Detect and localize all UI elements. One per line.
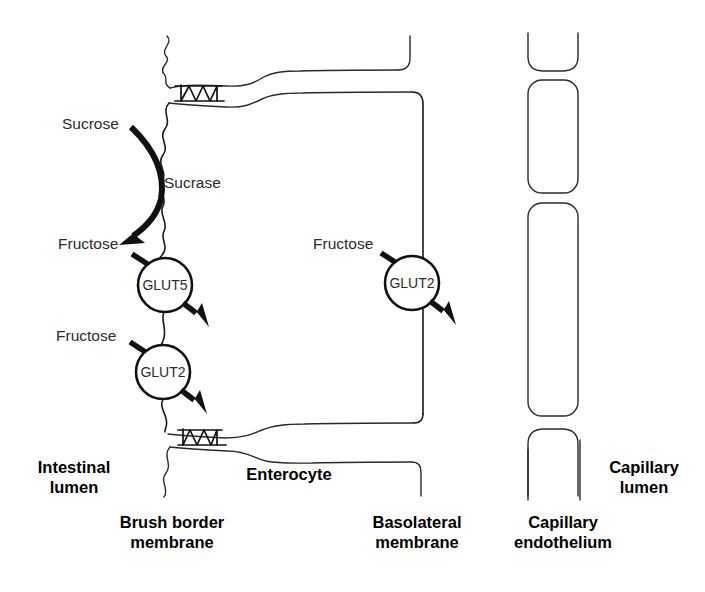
glut2-brush-border-label: GLUT2	[140, 364, 185, 380]
endothelial-cell-top-partial	[528, 33, 578, 71]
endothelial-cell-upper	[528, 80, 578, 193]
glut2-bl-outbound-arrow	[430, 301, 443, 311]
apical-tight-junction	[175, 85, 224, 101]
label-sucrose: Sucrose	[62, 115, 119, 132]
label-capillary-endothelium-line1: Capillary	[528, 513, 599, 531]
diagram-canvas: GLUT5 GLUT2 GLUT2 Sucrose Sucrase Fructo…	[0, 0, 705, 592]
brush-border-membrane-lower-wave	[162, 399, 167, 432]
enterocyte-basal-right-corner	[414, 414, 423, 423]
glut5-label: GLUT5	[142, 277, 187, 293]
capillary-leader-lines	[528, 440, 580, 500]
transporter-glut2-brush-border[interactable]: GLUT2	[130, 342, 207, 414]
transporter-glut5-brush-border[interactable]: GLUT5	[132, 254, 209, 327]
label-brush-border-line1: Brush border	[120, 513, 225, 531]
label-capillary-lumen-line2: lumen	[620, 478, 669, 496]
upper-cell-apical-wave	[162, 36, 170, 88]
label-basolateral-line1: Basolateral	[373, 513, 462, 531]
endothelial-cell-middle	[528, 203, 578, 416]
tight-junction-zigzag-apical	[181, 85, 217, 101]
label-fructose-lumen-lower: Fructose	[56, 327, 116, 344]
brush-border-membrane-intercarrier	[160, 312, 165, 346]
lower-cell-apical-wave	[164, 447, 170, 497]
label-intestinal-lumen-line2: lumen	[50, 478, 99, 496]
label-capillary-lumen-line1: Capillary	[609, 458, 680, 476]
glut2-bl-arrowhead	[438, 301, 456, 325]
enterocyte-apical-edge	[169, 92, 412, 107]
label-sucrase: Sucrase	[164, 174, 221, 191]
label-fructose-cytosol: Fructose	[313, 235, 373, 252]
enterocyte-outline	[159, 92, 423, 438]
upper-neighbor-cell	[162, 36, 410, 88]
glut2-basolateral-label: GLUT2	[389, 275, 434, 291]
fructose-absorption-diagram: GLUT5 GLUT2 GLUT2 Sucrose Sucrase Fructo…	[0, 0, 705, 592]
enterocyte-basolateral-top-corner	[412, 92, 423, 414]
label-capillary-endothelium-line2: endothelium	[514, 533, 612, 551]
label-brush-border-line2: membrane	[130, 533, 213, 551]
glut5-outbound-arrow	[183, 303, 196, 313]
glut5-inbound-arrow	[132, 254, 149, 265]
capillary-endothelium-cells	[528, 33, 578, 496]
sucrose-hydrolysis-arrow	[119, 127, 162, 245]
glut2-bb-arrowhead	[189, 390, 207, 414]
glut2-bb-outbound-arrow	[181, 390, 194, 400]
label-enterocyte: Enterocyte	[246, 465, 331, 483]
upper-cell-right-edge	[398, 36, 410, 70]
lower-cell-right-edge	[412, 462, 421, 496]
lower-cell-apical-edge	[170, 447, 412, 463]
glut5-arrowhead	[191, 303, 209, 327]
sucrose-to-fructose-curve	[131, 127, 162, 236]
endothelial-cell-bottom-partial	[528, 429, 578, 496]
transporter-glut2-basolateral[interactable]: GLUT2	[381, 253, 456, 325]
label-intestinal-lumen-line1: Intestinal	[38, 458, 110, 476]
label-basolateral-line2: membrane	[375, 533, 458, 551]
label-fructose-lumen-upper: Fructose	[58, 235, 118, 252]
